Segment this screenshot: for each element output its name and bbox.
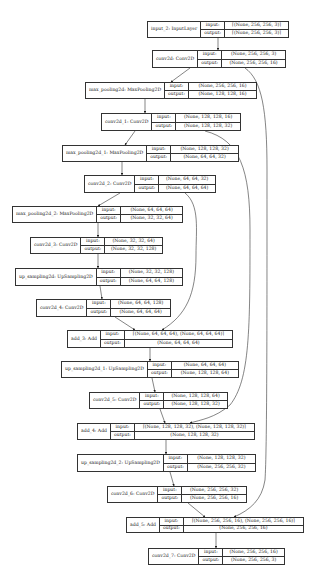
edge-skip-conv2d-add5	[234, 68, 267, 517]
input-label: input:	[111, 424, 134, 431]
output-shape: (None, 128, 128, 32)	[176, 122, 240, 131]
input-label: input:	[97, 207, 120, 214]
input-label: input:	[165, 83, 188, 90]
layer-conv2d_7: conv2d_7: Conv2D input:output: (None, 25…	[148, 548, 285, 565]
layer-conv2d_2: conv2d_2: Conv2D input:output: (None, 64…	[84, 175, 216, 193]
layer-name: max_pooling2d_1: MaxPooling2D	[63, 146, 147, 161]
layer-add_5: add_5: Add input:output: [(None, 256, 25…	[126, 517, 304, 533]
output-label: output:	[147, 153, 170, 161]
input-label: input:	[198, 51, 221, 59]
input-shape: (None, 64, 64, 128)	[111, 300, 170, 308]
edge-upsample2-conv2d6	[170, 472, 174, 486]
edge-conv2d4-add3	[115, 317, 135, 330]
input-label: input:	[135, 176, 158, 184]
input-label: input:	[152, 114, 175, 122]
input-shape: (None, 64, 64, 64)	[121, 207, 182, 214]
layer-name: conv2d: Conv2D	[153, 51, 198, 67]
edge-upsample1-conv2d5	[152, 378, 155, 392]
layer-conv2d_4: conv2d_4: Conv2D input:output: (None, 64…	[36, 299, 171, 317]
layer-up_sampling2d_2: up_sampling2d_2: UpSampling2D input:outp…	[77, 454, 256, 472]
layer-conv2d: conv2d: Conv2D input:output: (None, 256,…	[152, 50, 286, 68]
edge-conv2d-maxpool	[171, 68, 190, 82]
layer-up_sampling2d_1: up_sampling2d_1: UpSampling2D input:outp…	[61, 361, 239, 378]
input-shape: (None, 64, 64, 64)	[172, 362, 238, 369]
input-label: input:	[101, 331, 124, 339]
output-label: output:	[198, 59, 221, 68]
layer-name: conv2d_2: Conv2D	[85, 176, 135, 192]
input-label: input:	[97, 269, 120, 277]
layer-name: conv2d_6: Conv2D	[108, 487, 158, 502]
layer-conv2d_6: conv2d_6: Conv2D input:output: (None, 25…	[107, 486, 247, 503]
input-label: input:	[158, 487, 181, 494]
layer-name: add_5: Add	[127, 518, 160, 532]
layer-add_4: add_4: Add input:output: [(None, 128, 12…	[77, 423, 255, 440]
layer-max_pooling2d_2: max_pooling2d_2: MaxPooling2D input:outp…	[12, 206, 183, 223]
input-shape: (None, 128, 128, 64)	[164, 393, 227, 400]
output-shape: (None, 64, 64, 128)	[121, 277, 182, 286]
layer-name: conv2d_1: Conv2D	[102, 114, 152, 130]
layer-name: conv2d_7: Conv2D	[149, 549, 199, 564]
layer-name: up_sampling2d_1: UpSampling2D	[62, 362, 148, 377]
output-label: output:	[152, 122, 175, 131]
input-shape: [(None, 128, 128, 32), (None, 128, 128, …	[135, 424, 254, 431]
layer-conv2d_1: conv2d_1: Conv2D input:output: (None, 12…	[101, 113, 241, 131]
layer-conv2d_5: conv2d_5: Conv2D input:output: (None, 12…	[89, 392, 228, 409]
output-label: output:	[164, 463, 187, 472]
output-label: output:	[201, 29, 224, 37]
output-label: output:	[111, 431, 134, 439]
edge-upsample-conv2d4	[100, 286, 102, 299]
edge-conv2d6-add5	[188, 503, 205, 517]
input-shape: [(None, 256, 256, 3)]	[225, 22, 288, 29]
layer-name: max_pooling2d_2: MaxPooling2D	[13, 207, 97, 222]
layer-name: conv2d_4: Conv2D	[37, 300, 87, 316]
output-shape: (None, 256, 256, 16)	[222, 59, 285, 68]
output-shape: (None, 256, 256, 16)	[184, 525, 303, 533]
input-shape: (None, 256, 256, 16)	[223, 549, 284, 556]
output-label: output:	[140, 400, 163, 408]
output-shape: (None, 128, 128, 32)	[135, 431, 254, 439]
output-label: output:	[160, 525, 183, 533]
edge-conv2d1-maxpool1	[125, 131, 135, 145]
input-shape: (None, 32, 32, 64)	[105, 238, 162, 245]
layer-name: add_4: Add	[78, 424, 111, 439]
input-label: input:	[140, 393, 163, 400]
output-label: output:	[81, 245, 104, 253]
input-label: input:	[164, 455, 187, 463]
edge-conv2d2-maxpool2	[98, 193, 120, 206]
output-label: output:	[101, 339, 124, 348]
output-shape: [(None, 256, 256, 3)]	[225, 29, 288, 37]
layer-name: max_pooling2d: MaxPooling2D	[86, 83, 165, 98]
input-label: input:	[81, 238, 104, 245]
input-label: input:	[147, 146, 170, 153]
layer-add_3: add_3: Add input:output: [(None, 64, 64,…	[67, 330, 233, 348]
output-shape: (None, 32, 32, 128)	[105, 245, 162, 253]
output-label: output:	[87, 308, 110, 317]
layer-max_pooling2d_1: max_pooling2d_1: MaxPooling2D input:outp…	[62, 145, 239, 162]
layer-name: up_sampling2d_2: UpSampling2D	[78, 455, 164, 471]
output-shape: (None, 64, 64, 64)	[125, 339, 232, 348]
layer-name: add_3: Add	[68, 331, 101, 347]
input-shape: (None, 32, 32, 128)	[121, 269, 182, 277]
layer-max_pooling2d: max_pooling2d: MaxPooling2D input:output…	[85, 82, 257, 99]
input-label: input:	[148, 362, 171, 369]
input-shape: (None, 256, 256, 16)	[189, 83, 256, 90]
layer-input_2: input_2: InputLayer input:output: [(None…	[147, 21, 289, 38]
input-label: input:	[199, 549, 222, 556]
output-shape: (None, 64, 64, 32)	[171, 153, 238, 161]
input-shape: (None, 64, 64, 32)	[159, 176, 215, 184]
output-label: output:	[97, 214, 120, 222]
input-shape: [(None, 64, 64, 64), (None, 64, 64, 64)]	[125, 331, 232, 339]
output-label: output:	[148, 369, 171, 377]
output-shape: (None, 32, 32, 64)	[121, 214, 182, 222]
edge-conv2d5-add4	[160, 409, 165, 423]
input-shape: (None, 256, 256, 3)	[222, 51, 285, 59]
layer-name: up_sampling2d: UpSampling2D	[16, 269, 97, 285]
output-shape: (None, 128, 128, 16)	[189, 90, 256, 98]
input-label: input:	[87, 300, 110, 308]
layer-up_sampling2d: up_sampling2d: UpSampling2D input:output…	[15, 268, 183, 286]
output-label: output:	[97, 277, 120, 286]
layer-name: input_2: InputLayer	[148, 22, 201, 37]
input-shape: (None, 128, 128, 16)	[176, 114, 240, 122]
layer-conv2d_3: conv2d_3: Conv2D input:output: (None, 32…	[30, 237, 163, 254]
layer-name: conv2d_5: Conv2D	[90, 393, 140, 408]
